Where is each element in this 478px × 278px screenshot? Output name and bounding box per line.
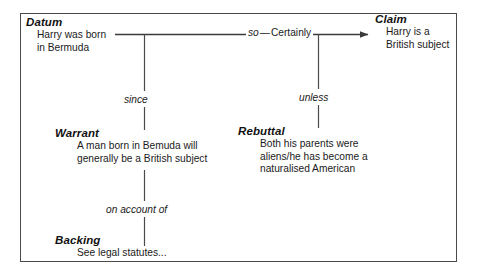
edge-label-unless: unless	[297, 92, 330, 104]
edge-label-on-account-of: on account of	[104, 204, 169, 216]
node-datum: Datum Harry was born in Bermuda	[26, 16, 106, 54]
node-warrant: Warrant A man born in Bemuda will genera…	[55, 127, 207, 165]
node-backing: Backing See legal statutes...	[55, 234, 166, 260]
node-warrant-line-1: A man born in Bemuda will	[77, 140, 207, 153]
node-rebuttal-title: Rebuttal	[238, 125, 368, 138]
node-claim-line-2: British subject	[386, 39, 449, 52]
qualifier-connective: so	[248, 27, 259, 38]
node-warrant-body: A man born in Bemuda will generally be a…	[55, 140, 207, 165]
node-rebuttal-line-1: Both his parents were	[260, 138, 368, 151]
edge-label-since: since	[122, 94, 150, 106]
node-datum-line-2: in Bermuda	[37, 42, 106, 55]
qualifier-force: Certainly	[271, 27, 311, 38]
qualifier-dash: —	[259, 27, 271, 38]
node-claim: Claim Harry is a British subject	[375, 13, 449, 51]
node-backing-title: Backing	[55, 234, 166, 247]
node-rebuttal: Rebuttal Both his parents were aliens/he…	[238, 125, 368, 176]
node-rebuttal-body: Both his parents were aliens/he has beco…	[238, 138, 368, 176]
node-claim-line-1: Harry is a	[386, 26, 449, 39]
node-claim-title: Claim	[375, 13, 449, 26]
node-backing-line-1: See legal statutes...	[77, 247, 166, 260]
node-claim-body: Harry is a British subject	[375, 26, 449, 51]
node-datum-line-1: Harry was born	[37, 29, 106, 42]
node-rebuttal-line-3: naturalised American	[260, 163, 368, 176]
toulmin-diagram: Datum Harry was born in Bermuda Claim Ha…	[0, 0, 478, 278]
node-backing-body: See legal statutes...	[55, 247, 166, 260]
node-rebuttal-line-2: aliens/he has become a	[260, 151, 368, 164]
edge-label-qualifier: so—Certainly	[246, 27, 313, 39]
node-datum-title: Datum	[26, 16, 106, 29]
node-warrant-line-2: generally be a British subject	[77, 153, 207, 166]
node-warrant-title: Warrant	[55, 127, 207, 140]
node-datum-body: Harry was born in Bermuda	[26, 29, 106, 54]
